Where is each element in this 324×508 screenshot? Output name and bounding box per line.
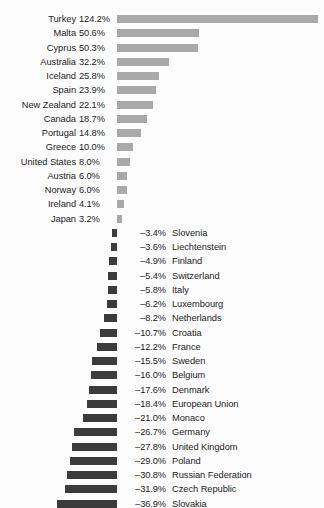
chart-row: –4.9%Finland [0,254,324,268]
bar-value-label: –31.9% [121,482,166,496]
bar-category-label: Greece [0,140,76,154]
bar [83,414,117,422]
bar-value-label: 18.7% [79,112,113,126]
bar [89,386,117,394]
bar-value-label: –18.4% [121,397,166,411]
bar [92,357,117,365]
bar-value-label: 124.2% [79,12,113,26]
bar-category-label: Slovakia [172,497,207,508]
bar [117,15,318,23]
chart-row: Australia32.2% [0,55,324,69]
bar [109,257,117,265]
bar-value-label: –21.0% [121,411,166,425]
bar [107,300,117,308]
bar-value-label: –36.9% [121,497,166,508]
chart-row: Austria6.0% [0,169,324,183]
chart-row: –36.9%Slovakia [0,497,324,508]
chart-row: Norway6.0% [0,183,324,197]
bar-value-label: –8.2% [121,311,166,325]
bar-value-label: 8.0% [79,155,113,169]
bar-value-label: –3.4% [121,226,166,240]
bar-category-label: Liechtenstein [172,240,226,254]
bar-category-label: Finland [172,254,202,268]
chart-row: Iceland25.8% [0,69,324,83]
chart-row: –29.0%Poland [0,454,324,468]
chart-row: New Zealand22.1% [0,98,324,112]
chart-row: –30.8%Russian Federation [0,468,324,482]
bar-category-label: Italy [172,283,189,297]
bar-category-label: Canada [0,112,76,126]
bar-value-label: –12.2% [121,340,166,354]
bar-category-label: Sweden [172,354,205,368]
bar-category-label: Netherlands [172,311,222,325]
bar [112,229,118,237]
bar [108,272,117,280]
bar-category-label: Luxembourg [172,297,223,311]
chart-row: Greece10.0% [0,140,324,154]
bar [97,343,117,351]
chart-row: –26.7%Germany [0,425,324,439]
bar-value-label: 22.1% [79,98,113,112]
bar-category-label: Cyprus [0,41,76,55]
bar [117,172,127,180]
bar-category-label: Slovenia [172,226,207,240]
chart-row: –17.6%Denmark [0,383,324,397]
chart-row: Ireland4.1% [0,197,324,211]
bar [117,115,147,123]
bar-category-label: Turkey [0,12,76,26]
bar-category-label: Portugal [0,126,76,140]
bar-value-label: –3.6% [121,240,166,254]
bar-value-label: 3.2% [79,212,113,226]
bar [117,158,130,166]
bar-category-label: Japan [0,212,76,226]
bar-category-label: Poland [172,454,201,468]
chart-row: –5.4%Switzerland [0,269,324,283]
chart-row: –18.4%European Union [0,397,324,411]
bar-value-label: –10.7% [121,326,166,340]
chart-row: Spain23.9% [0,83,324,97]
bar-value-label: –16.0% [121,368,166,382]
chart-row: –27.8%United Kingdom [0,440,324,454]
chart-row: Cyprus50.3% [0,41,324,55]
bar [117,200,124,208]
bar-category-label: Australia [0,55,76,69]
bar [70,457,117,465]
bar-category-label: United Kingdom [172,440,237,454]
bar-category-label: Russian Federation [172,468,252,482]
chart-row: –16.0%Belgium [0,368,324,382]
bar-value-label: –6.2% [121,297,166,311]
bar-value-label: –4.9% [121,254,166,268]
bar-category-label: Austria [0,169,76,183]
bar-value-label: –15.5% [121,354,166,368]
bar [87,400,117,408]
bar-value-label: 25.8% [79,69,113,83]
bar-value-label: –30.8% [121,468,166,482]
bar [72,443,117,451]
bar [117,72,159,80]
chart-row: United States8.0% [0,155,324,169]
bar [117,101,153,109]
chart-row: –31.9%Czech Republic [0,482,324,496]
chart-row: Japan3.2% [0,212,324,226]
bar-value-label: 14.8% [79,126,113,140]
bar-category-label: Croatia [172,326,202,340]
bar [65,485,117,493]
bar [117,29,199,37]
bar-category-label: Ireland [0,197,76,211]
chart-row: –3.4%Slovenia [0,226,324,240]
bar [117,44,198,52]
bar-category-label: Iceland [0,69,76,83]
chart-row: –21.0%Monaco [0,411,324,425]
bar-value-label: –17.6% [121,383,166,397]
bar-value-label: 50.6% [79,26,113,40]
chart-row: Turkey124.2% [0,12,324,26]
bar-category-label: Denmark [172,383,209,397]
bar-category-label: Switzerland [172,269,220,283]
bar-value-label: –29.0% [121,454,166,468]
bar [117,143,133,151]
bar-category-label: Czech Republic [172,482,236,496]
bar-value-label: 4.1% [79,197,113,211]
bar-category-label: New Zealand [0,98,76,112]
bar [91,371,117,379]
bar [111,243,117,251]
